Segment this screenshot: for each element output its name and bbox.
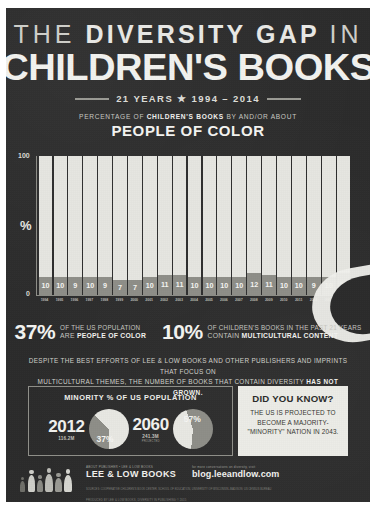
x-tick-2011: 2011 xyxy=(292,298,306,302)
bar-remainder xyxy=(307,156,321,277)
stat-caption: OF THE US POPULATIONARE PEOPLE OF COLOR xyxy=(60,324,146,341)
pie-year-block-2012: 2012116.2M xyxy=(48,418,84,441)
person-silhouette-icon xyxy=(55,473,62,492)
bottom-panels: MINORITY % OF US POPULATION 2012116.2M37… xyxy=(28,386,348,456)
bar-2004: 10 xyxy=(188,156,202,295)
subcaption-post: BY AND/OR ABOUT xyxy=(224,113,297,120)
stat-line-1: OF THE US POPULATION xyxy=(60,324,146,332)
x-tick-1999: 1999 xyxy=(112,298,126,302)
brand-block: ABOUT PUBLISHER • LEE & LOW BOOKS LEE & … xyxy=(86,465,176,480)
pie-chart-2060: 57% xyxy=(173,409,213,449)
person-silhouette-icon xyxy=(28,470,35,492)
bar-remainder xyxy=(54,156,68,277)
bar-remainder xyxy=(262,156,276,275)
people-silhouettes-icon xyxy=(20,466,80,492)
x-tick-1994: 1994 xyxy=(38,298,52,302)
x-tick-2002: 2002 xyxy=(157,298,171,302)
stat-line-1: OF CHILDREN'S BOOKS IN THE PAST 21 YEARS xyxy=(208,324,362,332)
dyk-line-2: BECOME A MAJORITY- xyxy=(257,419,328,426)
chart-plot-area: 1010910977101111101010101211101091014 xyxy=(36,156,352,296)
minority-panel-title: MINORITY % OF US POPULATION xyxy=(29,393,232,402)
stat-value: 10% xyxy=(162,320,203,344)
bar-value-label: 10 xyxy=(277,277,291,295)
dyk-line-1: THE US IS PROJECTED TO xyxy=(250,409,335,416)
person-silhouette-icon xyxy=(45,468,53,492)
person-silhouette-icon xyxy=(64,469,72,492)
title-diversity-gap: DIVERSITY GAP xyxy=(86,20,320,48)
x-tick-1995: 1995 xyxy=(53,298,67,302)
bar-1994: 10 xyxy=(39,156,53,295)
pie-year: 2012 xyxy=(48,418,84,435)
bar-value-label: 11 xyxy=(262,275,276,295)
bar-2001: 10 xyxy=(143,156,157,295)
person-silhouette-icon xyxy=(20,477,25,492)
bar-value-label: 11 xyxy=(158,275,172,295)
x-tick-1996: 1996 xyxy=(68,298,82,302)
bar-1999: 7 xyxy=(113,156,127,295)
pie-population: 116.2M xyxy=(48,436,84,441)
bar-remainder xyxy=(247,156,261,273)
bar-2005: 10 xyxy=(203,156,217,295)
x-tick-1997: 1997 xyxy=(82,298,96,302)
stat-line-2-bold: PEOPLE OF COLOR xyxy=(77,332,146,339)
bar-value-label: 10 xyxy=(292,277,306,295)
years-range: 21 YEARS ★ 1994 – 2014 xyxy=(116,93,260,104)
bar-value-label: 7 xyxy=(113,280,127,295)
produced-line: PRODUCED BY LEE & LOW BOOKS, DIVERSITY I… xyxy=(86,498,186,502)
stat-1: 37%OF THE US POPULATIONARE PEOPLE OF COL… xyxy=(15,320,147,344)
bar-value-label: 10 xyxy=(143,277,157,295)
blog-block[interactable]: for more conversations on diversity, vis… xyxy=(192,465,279,480)
blog-url[interactable]: blog.leeandlow.com xyxy=(192,469,279,480)
stat-2: 10%OF CHILDREN'S BOOKS IN THE PAST 21 YE… xyxy=(162,320,361,344)
x-tick-1998: 1998 xyxy=(97,298,111,302)
bar-2010: 10 xyxy=(277,156,291,295)
stat-line-2: ARE PEOPLE OF COLOR xyxy=(60,332,146,340)
x-tick-2009: 2009 xyxy=(262,298,276,302)
dyk-line-3: "MINORITY" NATION IN 2043. xyxy=(247,428,338,435)
infographic-poster: THE DIVERSITY GAP IN CHILDREN'S BOOKS 21… xyxy=(0,0,376,515)
person-silhouette-icon xyxy=(37,475,43,492)
bar-2009: 11 xyxy=(262,156,276,295)
bar-remainder xyxy=(217,156,231,277)
x-tick-2007: 2007 xyxy=(232,298,246,302)
bar-remainder xyxy=(158,156,172,275)
poster-header: THE DIVERSITY GAP IN CHILDREN'S BOOKS 21… xyxy=(6,20,370,139)
bar-2002: 11 xyxy=(158,156,172,295)
x-tick-2006: 2006 xyxy=(217,298,231,302)
sources-line: SOURCES: COOPERATIVE CHILDREN'S BOOK CEN… xyxy=(86,488,354,492)
y-tick-0: 0 xyxy=(26,290,30,297)
pie-chart-2012: 37% xyxy=(89,409,129,449)
bar-2006: 10 xyxy=(217,156,231,295)
subcaption-bold: CHILDREN'S BOOKS xyxy=(147,113,224,120)
pie-percent-label: 57% xyxy=(184,414,201,424)
brand-name: LEE & LOW BOOKS xyxy=(86,469,176,480)
bar-value-label: 9 xyxy=(68,277,82,295)
bar-remainder xyxy=(68,156,82,277)
bar-2000: 7 xyxy=(128,156,142,295)
bar-value-label: 10 xyxy=(217,277,231,295)
x-tick-2005: 2005 xyxy=(202,298,216,302)
pie-chart-group: 2012116.2M37%2060241.3MPROJECTED57% xyxy=(29,409,232,449)
bar-remainder xyxy=(83,156,97,277)
poster-sheet: THE DIVERSITY GAP IN CHILDREN'S BOOKS 21… xyxy=(6,8,370,502)
pie-percent-label: 37% xyxy=(97,434,114,444)
bar-value-label: 10 xyxy=(232,277,246,295)
bar-value-label: 10 xyxy=(188,277,202,295)
pie-year: 2060 xyxy=(133,416,169,433)
bar-remainder xyxy=(232,156,246,277)
bar-1997: 10 xyxy=(83,156,97,295)
stat-line-2-regular: CONTAIN xyxy=(208,332,242,339)
title-in: IN xyxy=(330,20,363,48)
x-tick-2000: 2000 xyxy=(127,298,141,302)
bar-value-label: 11 xyxy=(173,275,187,295)
key-stats-row: 37%OF THE US POPULATIONARE PEOPLE OF COL… xyxy=(6,320,370,344)
bar-value-label: 7 xyxy=(128,280,142,295)
bar-remainder xyxy=(98,156,112,277)
stat-line-2-bold: MULTICULTURAL CONTENT xyxy=(242,332,339,339)
bar-remainder xyxy=(203,156,217,277)
title-the: THE xyxy=(13,20,75,48)
bar-remainder xyxy=(113,156,127,280)
bar-remainder xyxy=(128,156,142,280)
did-you-know-panel: DID YOU KNOW? THE US IS PROJECTED TO BEC… xyxy=(238,386,348,456)
x-tick-2010: 2010 xyxy=(277,298,291,302)
